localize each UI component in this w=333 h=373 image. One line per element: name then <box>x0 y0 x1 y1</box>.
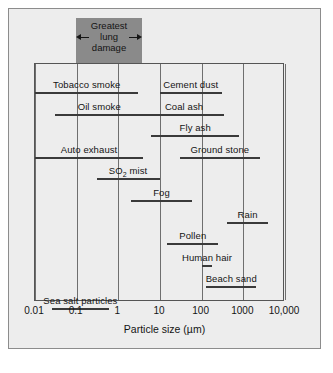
bar-rain <box>227 222 269 224</box>
bar-label-oil-smoke: Oil smoke <box>78 102 121 112</box>
x-axis-title: Particle size (µm) <box>9 323 320 335</box>
x-tick-label: 0.1 <box>69 305 83 316</box>
bar-label-rain: Rain <box>238 210 258 220</box>
bar-beach-sand <box>206 286 255 288</box>
x-tick-label: 100 <box>192 305 209 316</box>
bar-label-pollen: Pollen <box>179 231 206 241</box>
lung-damage-range-arrows <box>76 33 143 42</box>
bar-label-cement-dust: Cement dust <box>163 80 218 90</box>
x-tick-label: 1 <box>115 305 121 316</box>
arrow-line-right <box>129 37 137 38</box>
arrow-right-icon <box>137 34 142 40</box>
gridline <box>118 64 119 300</box>
x-tick-label: 1000 <box>231 305 253 316</box>
annotation-line-3: damage <box>76 42 143 53</box>
gridline <box>35 64 36 300</box>
bar-label-human-hair: Human hair <box>182 253 232 263</box>
figure-root: Greatest lung damage Tobacco smokeCement… <box>0 0 333 373</box>
bar-fly-ash <box>151 135 240 137</box>
bar-pollen <box>167 243 218 245</box>
gridline <box>160 64 161 300</box>
bar-cement-dust <box>160 92 222 94</box>
gridline <box>77 64 78 300</box>
bar-label-fly-ash: Fly ash <box>180 123 211 133</box>
x-tick-label: 0.01 <box>24 305 43 316</box>
figure-panel: Greatest lung damage Tobacco smokeCement… <box>8 8 321 349</box>
gridline <box>243 64 244 300</box>
gridline <box>285 64 286 300</box>
arrow-line-left <box>81 37 89 38</box>
bar-label-fog: Fog <box>153 188 170 198</box>
bar-tobacco-smoke <box>35 92 138 94</box>
bar-label-auto-exhaust: Auto exhaust <box>61 145 118 155</box>
bar-ground-stone <box>180 157 260 159</box>
bar-label-beach-sand: Beach sand <box>206 274 257 284</box>
annotation-line-1: Greatest <box>76 20 143 31</box>
bar-label-tobacco-smoke: Tobacco smoke <box>53 80 120 90</box>
bar-fog <box>131 200 193 202</box>
plot-area: Tobacco smokeCement dustOil smokeCoal as… <box>34 63 284 301</box>
bar-label-coal-ash: Coal ash <box>165 102 203 112</box>
bar-auto-exhaust <box>35 157 143 159</box>
x-tick-label: 10,000 <box>269 305 300 316</box>
bar-human-hair <box>202 265 213 267</box>
bar-oil-smoke <box>55 114 144 116</box>
bar-coal-ash <box>143 114 224 116</box>
x-tick-label: 10 <box>153 305 164 316</box>
bar-label-so2-mist: SO2 mist <box>109 166 148 180</box>
bar-label-ground-stone: Ground stone <box>190 145 249 155</box>
